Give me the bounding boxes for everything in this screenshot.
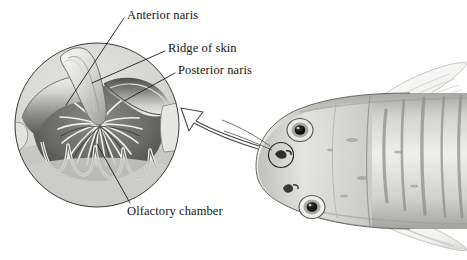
label-anterior-naris: Anterior naris [127,9,198,22]
magnify-arrow [181,108,262,150]
label-ridge-of-skin: Ridge of skin [168,42,237,55]
lower-eye [299,196,325,219]
label-posterior-naris: Posterior naris [178,64,252,77]
label-olfactory-chamber: Olfactory chamber [127,205,223,218]
upper-eye [287,119,313,142]
figure-illustration [0,0,467,260]
inset-group [11,43,182,210]
fish-group [256,63,467,251]
inset-floor-shade [20,158,182,210]
figure-root: Anterior naris Ridge of skin Posterior n… [0,0,467,260]
